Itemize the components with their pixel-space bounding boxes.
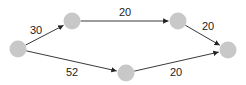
graph-diagram: 3020205220: [0, 0, 246, 85]
graph-node-A: [10, 41, 27, 58]
edge-weight-label: 30: [30, 24, 42, 36]
edge-weight-label: 20: [170, 66, 182, 78]
edge-weight-label: 20: [119, 6, 131, 18]
graph-node-B: [64, 13, 81, 30]
graph-node-D: [118, 65, 135, 82]
graph-node-E: [220, 42, 237, 59]
graph-node-C: [170, 13, 187, 30]
edge-weight-label: 52: [66, 66, 78, 78]
edge-weight-label: 20: [202, 20, 214, 32]
